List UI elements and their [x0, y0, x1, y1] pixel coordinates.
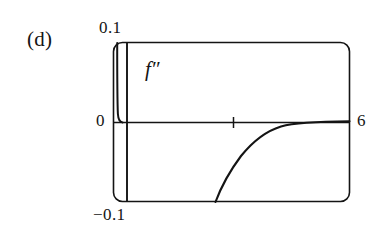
curve-left-branch — [117, 43, 122, 122]
figure-panel: (d) 0.1 −0.1 0 6 f″ — [0, 0, 379, 228]
plot-canvas — [0, 0, 379, 228]
curve-right-branch — [216, 121, 350, 202]
